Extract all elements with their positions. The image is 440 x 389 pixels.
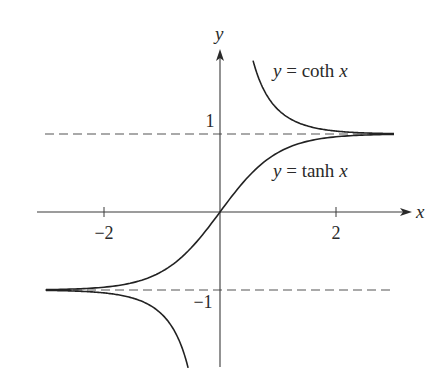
x-axis-label: x <box>415 201 425 222</box>
x-tick-label-neg2: −2 <box>94 223 113 243</box>
y-axis-label: y <box>213 23 224 44</box>
coth-label: y = coth x <box>271 60 348 81</box>
coth-curve-negative <box>46 290 188 367</box>
hyperbolic-functions-chart: y x −2 2 1 −1 y = coth x y = tanh x <box>0 0 440 389</box>
tanh-label: y = tanh x <box>271 160 348 181</box>
y-tick-label-neg1: −1 <box>193 292 212 312</box>
y-tick-label-1: 1 <box>206 111 215 131</box>
x-tick-label-2: 2 <box>332 223 341 243</box>
